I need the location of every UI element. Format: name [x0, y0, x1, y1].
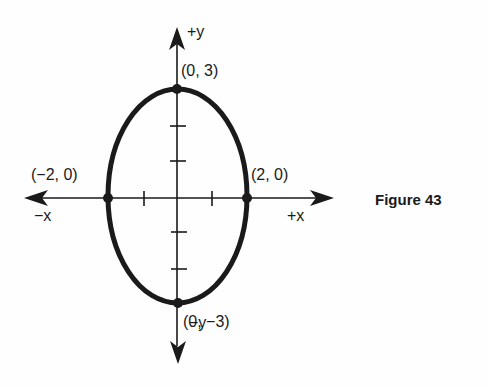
point-bottom — [173, 298, 183, 308]
neg-y-arrow-icon — [170, 341, 186, 364]
point-top — [172, 84, 182, 94]
point-right — [242, 193, 252, 203]
pos-x-label: +x — [287, 208, 304, 224]
figure-caption: Figure 43 — [375, 192, 442, 207]
point-left — [103, 193, 113, 203]
point-bottom-label: (0, −3) — [183, 314, 230, 330]
point-top-label: (0, 3) — [181, 63, 218, 79]
pos-y-label: +y — [187, 24, 204, 40]
figure-43: +y −y +x −x (0, 3) (0, −3) (−2, 0) (2, 0… — [0, 0, 489, 388]
neg-x-label: −x — [34, 208, 51, 224]
point-right-label: (2, 0) — [251, 167, 288, 183]
point-left-label: (−2, 0) — [31, 167, 78, 183]
